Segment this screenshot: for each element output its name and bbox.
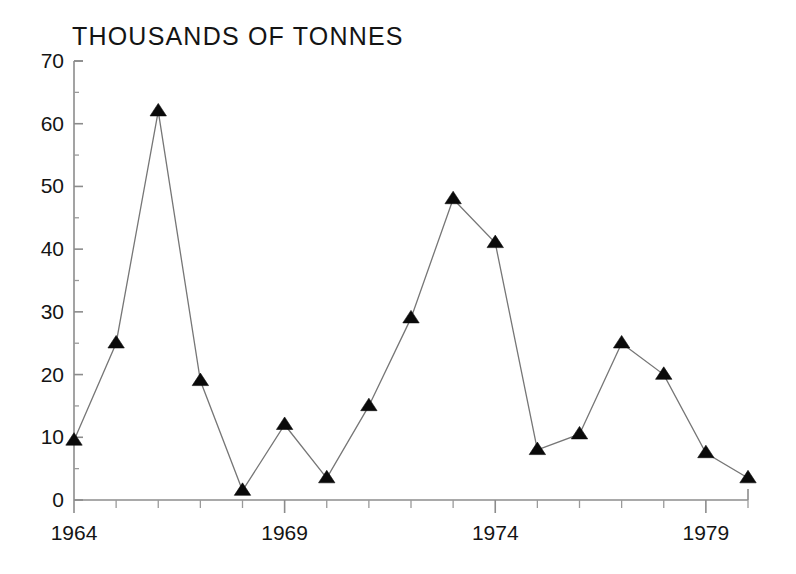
y-axis-tick-labels: 010203040506070 [41,49,64,511]
data-point-marker [108,335,124,348]
y-tick-label: 50 [41,174,64,197]
x-axis-tick-labels: 1964196919741979 [51,521,730,544]
x-tick-label: 1974 [472,521,519,544]
data-series-line [74,111,748,490]
data-point-marker [192,373,208,386]
data-point-markers [66,103,756,495]
y-tick-label: 40 [41,237,64,260]
y-tick-label: 10 [41,425,64,448]
data-point-marker [613,335,629,348]
data-point-marker [150,103,166,116]
data-point-marker [66,433,82,446]
y-tick-label: 0 [52,488,64,511]
line-chart-plot: 010203040506070 1964196919741979 [0,0,796,574]
data-point-marker [319,470,335,483]
data-point-marker [445,191,461,204]
y-tick-label: 30 [41,300,64,323]
data-point-marker [698,445,714,458]
y-tick-label: 60 [41,112,64,135]
chart-page: THOUSANDS OF TONNES 010203040506070 1964… [0,0,796,574]
data-point-marker [571,426,587,439]
data-point-marker [656,367,672,380]
x-tick-label: 1969 [261,521,308,544]
data-point-marker [234,483,250,496]
x-tick-label: 1964 [51,521,98,544]
y-tick-label: 70 [41,49,64,72]
x-tick-label: 1979 [683,521,730,544]
data-point-marker [403,310,419,323]
data-point-marker [276,417,292,430]
y-tick-label: 20 [41,363,64,386]
chart-axes [74,61,748,513]
data-point-marker [740,470,756,483]
data-point-marker [361,398,377,411]
